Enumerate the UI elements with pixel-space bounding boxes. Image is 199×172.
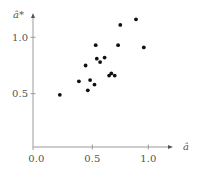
x-tick-label: 0.0 — [28, 153, 44, 164]
y-tick-label: 1.0 — [12, 32, 28, 43]
y-axis-arrow-icon — [31, 13, 35, 18]
data-point — [95, 57, 99, 61]
data-point — [113, 74, 117, 78]
data-point — [77, 79, 81, 83]
data-point — [88, 78, 92, 82]
x-tick-label: 1.0 — [140, 153, 156, 164]
x-axis-label: â — [183, 141, 189, 152]
data-point — [118, 23, 122, 27]
data-point — [116, 43, 120, 47]
data-point — [58, 93, 62, 97]
data-point — [94, 43, 98, 47]
y-axis: â* 0.51.0 — [12, 9, 35, 150]
x-axis: â 0.00.51.0 — [28, 141, 189, 164]
data-point — [103, 56, 107, 60]
x-axis-arrow-icon — [168, 145, 173, 149]
data-point — [93, 83, 97, 87]
data-point — [109, 72, 113, 76]
y-tick-label: 0.5 — [12, 88, 28, 99]
data-point — [86, 88, 90, 92]
data-point — [142, 46, 146, 50]
data-point — [134, 17, 138, 21]
x-tick-label: 0.5 — [84, 153, 100, 164]
data-points — [58, 17, 146, 96]
y-axis-label: â* — [13, 9, 24, 20]
data-point — [98, 60, 102, 64]
data-point — [84, 64, 88, 68]
y-ticks: 0.51.0 — [12, 32, 35, 99]
scatter-chart: â* 0.51.0 â 0.00.51.0 — [0, 0, 199, 172]
